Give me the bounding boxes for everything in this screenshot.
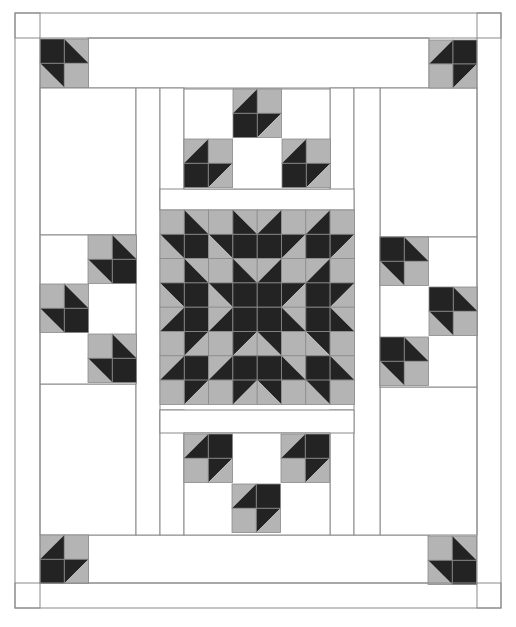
patch-D [64, 308, 88, 332]
patch-LR [257, 210, 281, 234]
right-strip-outer [354, 88, 380, 535]
patch-G [404, 261, 428, 285]
patch-UL [184, 380, 208, 404]
patch-UL [184, 332, 208, 356]
patch-G [232, 508, 256, 532]
patch-LRg [429, 40, 453, 64]
patch-D [257, 356, 281, 380]
patch-D [40, 559, 64, 583]
patch-D [233, 234, 257, 258]
patch-ULd [208, 163, 232, 187]
patch-D [257, 283, 281, 307]
patch-D [184, 163, 208, 187]
patch-D [306, 356, 330, 380]
patch-D [233, 283, 257, 307]
patch-G [40, 284, 64, 308]
top-center-bird-2 [184, 139, 233, 188]
patch-D [112, 259, 136, 283]
right-corner-top [477, 13, 501, 38]
patch-D [306, 283, 330, 307]
patch-UR [40, 308, 64, 332]
patch-LR [209, 307, 233, 331]
patch-G [281, 458, 305, 482]
patch-LL [184, 210, 208, 234]
patch-D [40, 39, 64, 63]
patch-G [209, 380, 233, 404]
patch-ULd [305, 458, 329, 482]
patch-G [330, 259, 354, 283]
patch-LL [453, 287, 477, 311]
patch-UR [88, 259, 112, 283]
patch-D [453, 40, 477, 64]
patch-UL [282, 234, 306, 258]
patch-ULd [453, 64, 477, 88]
patch-LL [404, 237, 428, 261]
patch-LL [282, 356, 306, 380]
patch-LL [184, 259, 208, 283]
patch-UR [257, 332, 281, 356]
patch-LRg [233, 89, 257, 113]
patch-D [208, 434, 232, 458]
top-center-bird-1 [233, 89, 282, 138]
patch-LRg [281, 434, 305, 458]
patch-G [208, 139, 232, 163]
patch-G [282, 259, 306, 283]
left-bird-1 [88, 235, 137, 284]
patch-G [428, 536, 452, 560]
left-bottom-panel [40, 384, 136, 535]
patch-G [429, 64, 453, 88]
patch-D [233, 356, 257, 380]
patch-G [160, 210, 184, 234]
patch-UL [330, 234, 354, 258]
right-top-panel [380, 88, 477, 237]
patch-G [160, 332, 184, 356]
patch-LL [282, 307, 306, 331]
top-center-strip [160, 189, 354, 210]
patch-LL [64, 39, 88, 63]
patch-LRg [40, 535, 64, 559]
corner-top-right [429, 40, 477, 88]
patch-UL [282, 283, 306, 307]
center-star-block [160, 210, 354, 404]
left-strip-outer [136, 88, 160, 535]
patch-LR [257, 259, 281, 283]
patch-G [209, 210, 233, 234]
patch-LRg [184, 139, 208, 163]
right-bottom-panel [380, 387, 477, 535]
patch-UR [209, 283, 233, 307]
corner-top-left [40, 39, 89, 88]
patch-UR [306, 332, 330, 356]
patch-G [160, 380, 184, 404]
bottom-center-bird-1 [184, 434, 233, 483]
patch-LL [452, 536, 476, 560]
patch-G [306, 139, 330, 163]
patch-G [330, 210, 354, 234]
patch-D [380, 237, 404, 261]
patch-LL [112, 334, 136, 358]
patch-G [64, 63, 88, 87]
patch-UR [160, 283, 184, 307]
patch-ULd [256, 508, 280, 532]
top-sashing [88, 38, 429, 88]
left-bird-3 [88, 334, 137, 383]
patch-LL [112, 235, 136, 259]
patch-G [88, 334, 112, 358]
left-corner-bottom [15, 583, 40, 608]
patch-UL [233, 332, 257, 356]
patch-D [184, 307, 208, 331]
patch-D [305, 434, 329, 458]
patch-ULd [306, 163, 330, 187]
patch-UR [88, 358, 112, 382]
patch-G [282, 332, 306, 356]
patch-UL [233, 380, 257, 404]
patch-G [184, 458, 208, 482]
patch-LL [64, 284, 88, 308]
patch-LR [160, 356, 184, 380]
bottom-center-bird-2 [281, 434, 330, 483]
patch-UR [429, 311, 453, 335]
patch-UR [380, 361, 404, 385]
patch-UR [209, 234, 233, 258]
patch-UR [428, 560, 452, 584]
patch-D [452, 560, 476, 584]
corner-bottom-left [40, 535, 89, 584]
